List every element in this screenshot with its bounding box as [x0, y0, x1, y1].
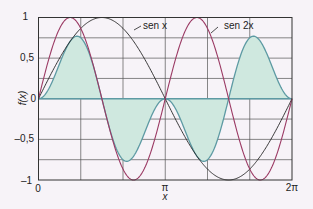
- x-axis-label: x: [162, 191, 169, 202]
- sin-2x-annotation: sen 2x: [224, 20, 253, 31]
- y-tick-0: 0: [30, 93, 36, 104]
- y-tick-minus-0.5: –0,5: [15, 133, 35, 144]
- sin-2x-leader: [211, 27, 218, 33]
- sin-x-annotation: sen x: [143, 20, 167, 31]
- y-tick-minus-1: –1: [21, 175, 33, 186]
- chart: 1 0,5 0 –0,5 –1 0 π 2π x f(x) sen x sen …: [0, 0, 313, 209]
- x-tick-0: 0: [35, 183, 41, 194]
- y-tick-1: 1: [22, 11, 28, 22]
- y-tick-0.5: 0,5: [20, 52, 34, 63]
- y-axis-label: f(x): [17, 91, 28, 105]
- sin-x-leader: [134, 26, 141, 30]
- x-tick-2pi: 2π: [286, 182, 299, 193]
